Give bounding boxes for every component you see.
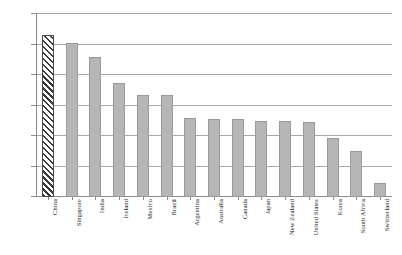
bar[interactable]	[89, 57, 101, 197]
bar[interactable]	[232, 119, 244, 197]
x-axis-label: Argentina	[193, 199, 200, 226]
bar-slot	[83, 13, 107, 197]
x-axis-label: Japan	[264, 199, 271, 214]
bar[interactable]	[42, 35, 54, 197]
x-axis-label: United States	[312, 199, 319, 235]
x-axis-label: Australia	[217, 199, 224, 224]
bar-slot	[107, 13, 131, 197]
bar-slot	[36, 13, 60, 197]
x-axis-label: Singapore	[75, 199, 82, 226]
bar-slot	[321, 13, 345, 197]
x-axis-label: India	[98, 199, 105, 213]
x-axis-label: New Zealand	[288, 199, 295, 235]
bar-slot	[297, 13, 321, 197]
x-axis-label: Iceland	[122, 199, 129, 219]
x-axis-label: Brazil	[170, 199, 177, 216]
x-axis-label: Korea	[336, 199, 343, 215]
bar[interactable]	[66, 43, 78, 197]
bar-slot	[178, 13, 202, 197]
bar[interactable]	[161, 95, 173, 197]
bar[interactable]	[255, 121, 267, 197]
bar-slot	[368, 13, 392, 197]
bar-slot	[273, 13, 297, 197]
bar[interactable]	[303, 122, 315, 197]
bar[interactable]	[327, 138, 339, 197]
bar[interactable]	[279, 121, 291, 197]
x-axis-label: South Africa	[359, 199, 366, 233]
bar[interactable]	[350, 151, 362, 197]
bar-slot	[155, 13, 179, 197]
bar-chart: 100%90%80%70%60%50%40% ChinaSingaporeInd…	[0, 0, 402, 255]
bar[interactable]	[208, 119, 220, 197]
bar[interactable]	[137, 95, 149, 197]
bar-slot	[131, 13, 155, 197]
bar[interactable]	[113, 83, 125, 197]
bar[interactable]	[374, 183, 386, 197]
bar-slot	[250, 13, 274, 197]
bar[interactable]	[184, 118, 196, 197]
bar-slot	[226, 13, 250, 197]
bar-slot	[345, 13, 369, 197]
bars-layer	[36, 13, 392, 197]
x-axis-label: Switzerland	[383, 199, 390, 231]
x-axis-label: China	[51, 199, 58, 215]
bar-slot	[60, 13, 84, 197]
x-axis-labels: ChinaSingaporeIndiaIcelandMexicoBrazilAr…	[36, 199, 392, 255]
bar-slot	[202, 13, 226, 197]
x-axis-label: Canada	[241, 199, 248, 219]
x-axis-label: Mexico	[146, 199, 153, 219]
